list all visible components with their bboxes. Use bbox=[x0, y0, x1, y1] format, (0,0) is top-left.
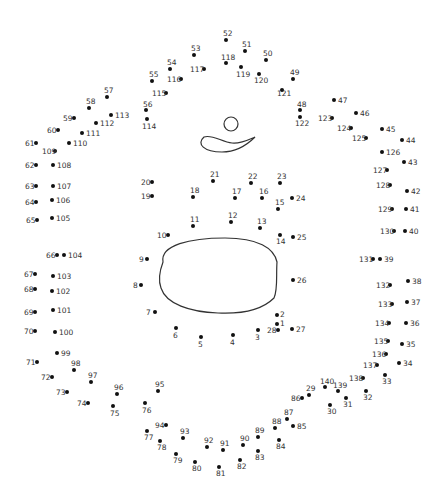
dot-label-124: 124 bbox=[337, 125, 351, 133]
dot-label-47: 47 bbox=[338, 97, 348, 105]
dot-43 bbox=[402, 160, 406, 164]
dot-119 bbox=[239, 65, 243, 69]
dot-95 bbox=[156, 389, 160, 393]
head-circle-shape bbox=[224, 117, 238, 131]
dot-label-57: 57 bbox=[104, 87, 114, 95]
dot-87 bbox=[285, 417, 289, 421]
dot-label-100: 100 bbox=[59, 329, 73, 337]
dot-label-125: 125 bbox=[352, 135, 366, 143]
dot-label-55: 55 bbox=[149, 71, 159, 79]
dot-label-44: 44 bbox=[406, 137, 416, 145]
dot-label-76: 76 bbox=[142, 407, 152, 415]
dot-label-110: 110 bbox=[73, 140, 87, 148]
dot-label-61: 61 bbox=[25, 140, 35, 148]
dot-label-140: 140 bbox=[320, 378, 334, 386]
dot-88 bbox=[273, 426, 277, 430]
dot-label-71: 71 bbox=[26, 359, 36, 367]
dot-27 bbox=[290, 327, 294, 331]
dot-label-30: 30 bbox=[327, 408, 337, 416]
dot-29 bbox=[307, 393, 311, 397]
dot-label-98: 98 bbox=[71, 360, 81, 368]
dot-110 bbox=[67, 141, 71, 145]
dot-label-89: 89 bbox=[255, 427, 265, 435]
dot-label-22: 22 bbox=[248, 173, 258, 181]
dot-label-69: 69 bbox=[24, 309, 34, 317]
dot-label-111: 111 bbox=[86, 130, 100, 138]
dot-label-129: 129 bbox=[378, 206, 392, 214]
dot-label-120: 120 bbox=[254, 77, 268, 85]
dot-label-12: 12 bbox=[228, 212, 238, 220]
dot-label-34: 34 bbox=[403, 360, 413, 368]
dot-label-74: 74 bbox=[77, 400, 87, 408]
dot-label-80: 80 bbox=[192, 465, 202, 473]
dot-label-3: 3 bbox=[255, 334, 260, 342]
dot-114 bbox=[145, 117, 149, 121]
dot-label-27: 27 bbox=[296, 326, 306, 334]
dot-label-7: 7 bbox=[146, 309, 151, 317]
dot-label-97: 97 bbox=[88, 372, 98, 380]
dot-label-68: 68 bbox=[24, 286, 34, 294]
dot-label-107: 107 bbox=[57, 183, 71, 191]
dot-label-130: 130 bbox=[380, 228, 394, 236]
dot-label-42: 42 bbox=[411, 188, 421, 196]
dot-112 bbox=[94, 121, 98, 125]
dot-label-11: 11 bbox=[190, 216, 200, 224]
dot-16 bbox=[260, 196, 264, 200]
dot-101 bbox=[51, 308, 55, 312]
dot-92 bbox=[205, 445, 209, 449]
dot-3 bbox=[256, 328, 260, 332]
dot-label-106: 106 bbox=[56, 197, 70, 205]
dot-label-85: 85 bbox=[297, 423, 307, 431]
dot-label-16: 16 bbox=[259, 188, 269, 196]
dot-label-48: 48 bbox=[297, 101, 307, 109]
dot-45 bbox=[380, 127, 384, 131]
dot-9 bbox=[145, 257, 149, 261]
dot-label-139: 139 bbox=[333, 382, 347, 390]
dot-label-72: 72 bbox=[41, 374, 51, 382]
dot-label-94: 94 bbox=[155, 422, 165, 430]
dot-24 bbox=[290, 196, 294, 200]
dot-8 bbox=[139, 283, 143, 287]
dot-label-29: 29 bbox=[306, 385, 316, 393]
dot-label-83: 83 bbox=[255, 454, 265, 462]
dot-26 bbox=[291, 278, 295, 282]
dot-label-45: 45 bbox=[386, 126, 396, 134]
dot-58 bbox=[87, 106, 91, 110]
dot-label-104: 104 bbox=[68, 252, 82, 260]
dot-label-56: 56 bbox=[143, 101, 153, 109]
dot-label-54: 54 bbox=[167, 59, 177, 67]
dot-93 bbox=[181, 436, 185, 440]
dot-17 bbox=[233, 196, 237, 200]
dot-44 bbox=[400, 138, 404, 142]
dot-label-137: 137 bbox=[363, 362, 377, 370]
dot-label-127: 127 bbox=[373, 167, 387, 175]
dot-label-87: 87 bbox=[284, 409, 294, 417]
dot-105 bbox=[50, 216, 54, 220]
dot-label-122: 122 bbox=[295, 120, 309, 128]
dot-label-101: 101 bbox=[57, 307, 71, 315]
dot-label-115: 115 bbox=[152, 90, 166, 98]
dot-75 bbox=[111, 404, 115, 408]
dot-35 bbox=[400, 342, 404, 346]
dot-label-77: 77 bbox=[144, 434, 154, 442]
dot-label-116: 116 bbox=[167, 76, 181, 84]
dot-label-18: 18 bbox=[190, 187, 200, 195]
dot-23 bbox=[278, 181, 282, 185]
dot-41 bbox=[404, 207, 408, 211]
dot-22 bbox=[249, 181, 253, 185]
dot-label-35: 35 bbox=[406, 341, 416, 349]
dot-label-4: 4 bbox=[230, 339, 235, 347]
dot-label-8: 8 bbox=[133, 282, 138, 290]
dot-label-25: 25 bbox=[297, 234, 307, 242]
dot-label-67: 67 bbox=[24, 271, 34, 279]
dot-107 bbox=[51, 184, 55, 188]
dot-label-132: 132 bbox=[376, 282, 390, 290]
dot-label-19: 19 bbox=[141, 193, 151, 201]
dot-126 bbox=[380, 150, 384, 154]
dot-label-119: 119 bbox=[236, 71, 250, 79]
dot-label-59: 59 bbox=[63, 115, 73, 123]
dot-label-43: 43 bbox=[408, 159, 418, 167]
dot-91 bbox=[221, 448, 225, 452]
dot-label-33: 33 bbox=[382, 378, 392, 386]
dot-label-131: 131 bbox=[359, 256, 373, 264]
